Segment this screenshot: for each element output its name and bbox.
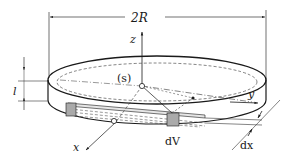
disk-diagram: 2R l xyxy=(0,0,294,163)
x-axis-label: x xyxy=(73,141,80,154)
axes xyxy=(60,32,258,150)
left-element xyxy=(66,103,76,116)
dx-label: dx xyxy=(240,139,254,152)
volume-element-dV xyxy=(167,113,179,126)
origin-point xyxy=(139,83,144,88)
disk-body xyxy=(48,56,266,127)
z-axis-label: z xyxy=(129,33,136,46)
bottom-point xyxy=(111,118,116,123)
thickness-dimension xyxy=(18,57,48,110)
y-axis-label: y xyxy=(247,88,255,101)
diameter-label: 2R xyxy=(130,11,148,25)
volume-element-label: dV xyxy=(165,135,181,148)
thickness-label: l xyxy=(13,85,17,98)
surface-label: (s) xyxy=(117,72,131,85)
